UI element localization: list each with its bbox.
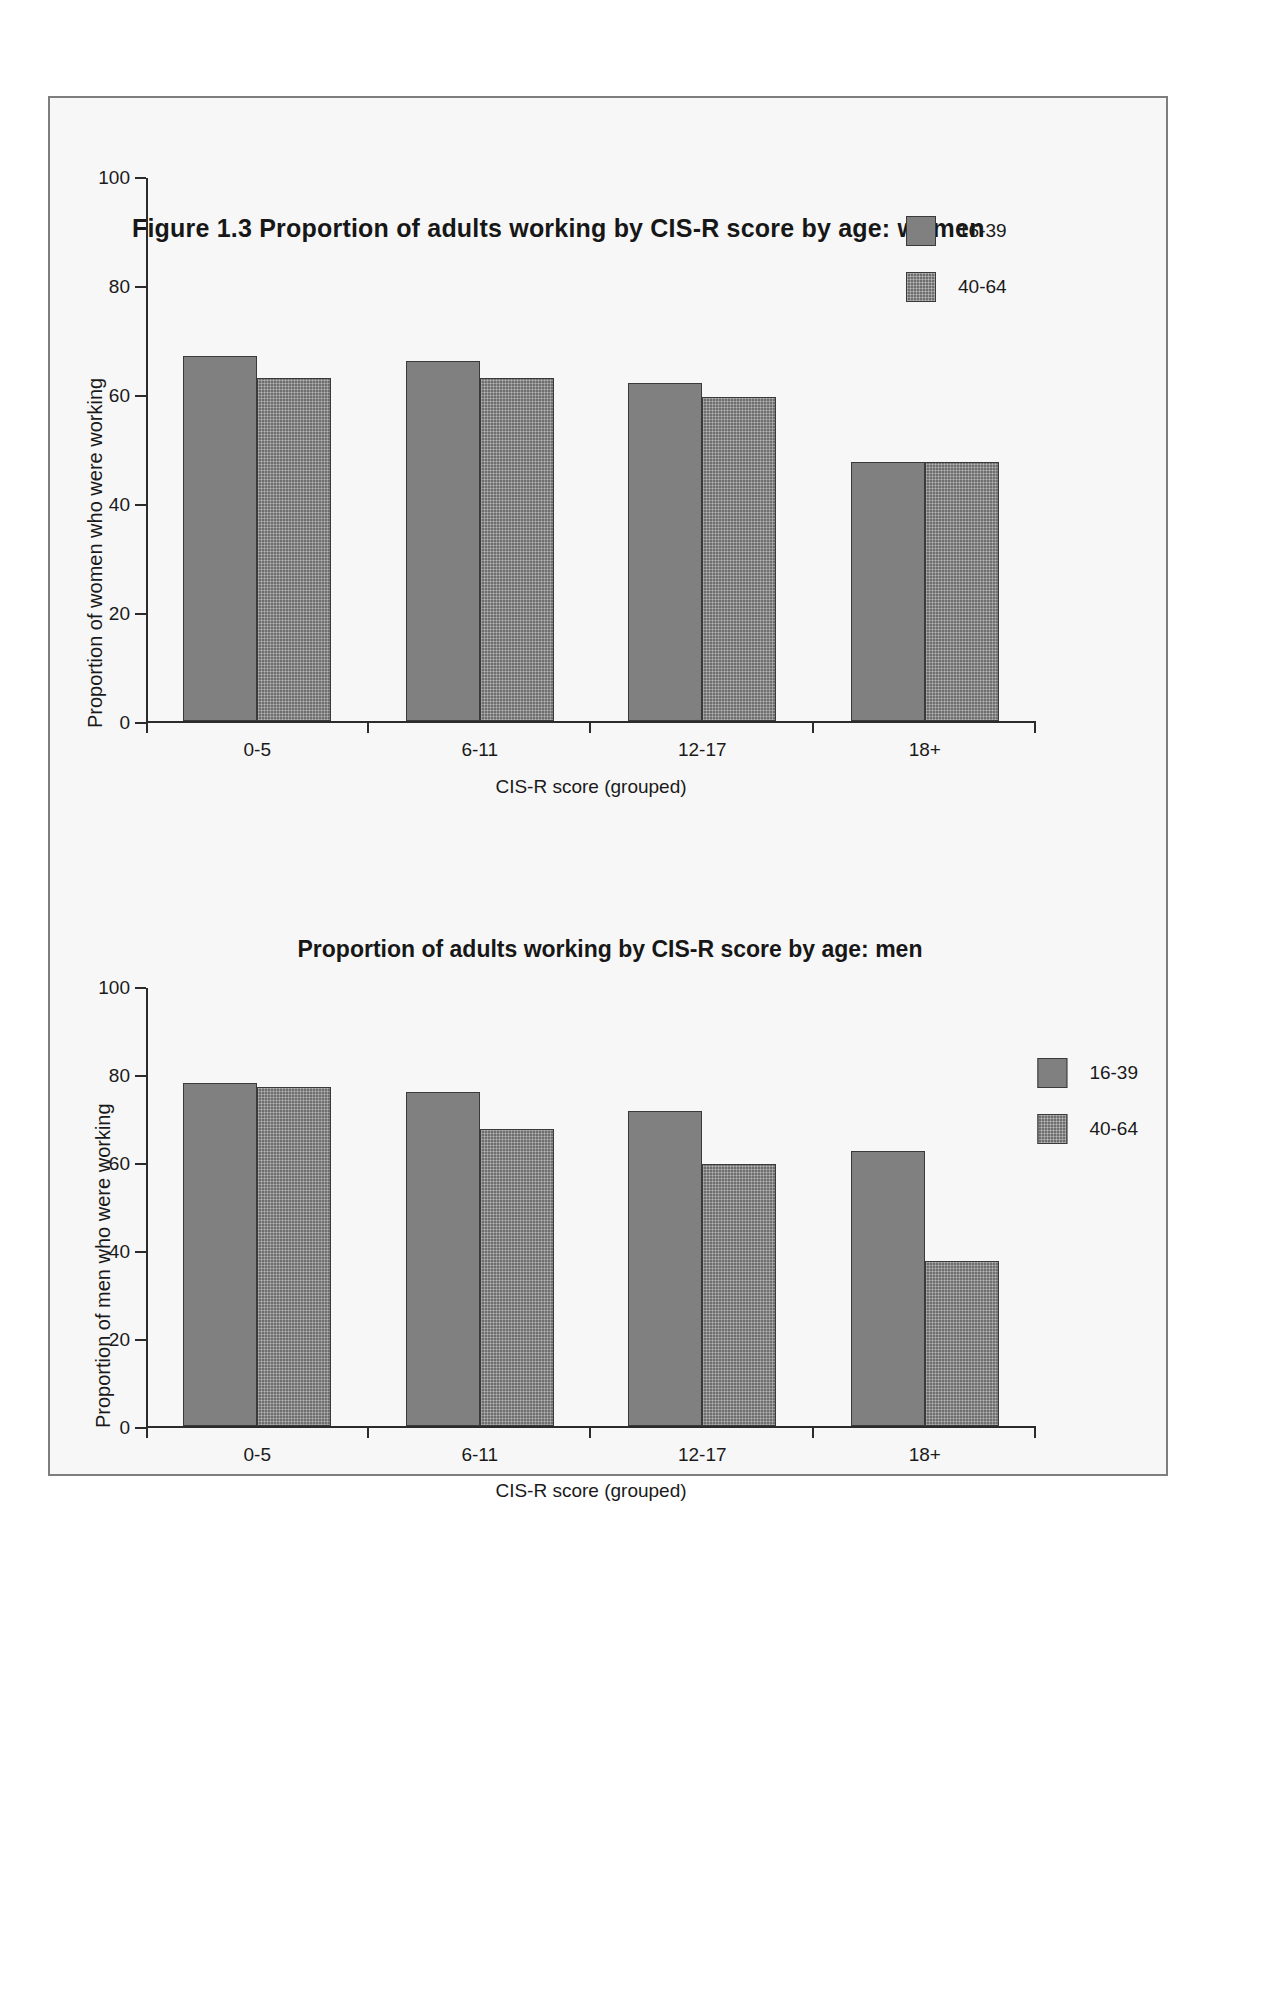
legend-item-16-39: 16-39 bbox=[1037, 1058, 1138, 1088]
x-axis-label-men: CIS-R score (grouped) bbox=[495, 1480, 686, 1502]
y-axis-tick-label: 20 bbox=[109, 603, 130, 625]
legend-label: 16-39 bbox=[1089, 1062, 1138, 1084]
y-axis-tick-label: 100 bbox=[98, 977, 130, 999]
legend-label: 40-64 bbox=[1089, 1118, 1138, 1140]
x-axis-line bbox=[146, 1426, 1036, 1428]
legend-swatch-16-39 bbox=[906, 216, 936, 246]
x-axis-tick bbox=[146, 723, 148, 733]
legend-item-16-39: 16-39 bbox=[906, 216, 1007, 246]
bar-40-64-18+ bbox=[925, 1261, 999, 1426]
y-axis-tick-label: 80 bbox=[109, 1065, 130, 1087]
legend-item-40-64: 40-64 bbox=[906, 272, 1007, 302]
chart-women: 0204060801000-56-1112-1718+ bbox=[146, 178, 1036, 723]
bar-40-64-6-11 bbox=[480, 1129, 554, 1426]
bar-40-64-12-17 bbox=[702, 397, 776, 721]
y-axis-tick bbox=[135, 722, 146, 724]
bar-16-39-6-11 bbox=[406, 361, 480, 721]
y-axis-tick bbox=[135, 1339, 146, 1341]
chart-men-title: Proportion of adults working by CIS-R sc… bbox=[50, 936, 1170, 963]
y-axis-tick bbox=[135, 286, 146, 288]
x-axis-category-label: 12-17 bbox=[678, 739, 727, 761]
y-axis-tick-label: 100 bbox=[98, 167, 130, 189]
x-axis-category-label: 0-5 bbox=[244, 1444, 271, 1466]
legend-swatch-40-64 bbox=[1037, 1114, 1067, 1144]
bar-16-39-12-17 bbox=[628, 383, 702, 721]
bar-16-39-18+ bbox=[851, 1151, 925, 1426]
y-axis-tick-label: 80 bbox=[109, 276, 130, 298]
legend-item-40-64: 40-64 bbox=[1037, 1114, 1138, 1144]
y-axis-line bbox=[146, 988, 148, 1428]
figure-page-frame: Figure 1.3 Proportion of adults working … bbox=[48, 96, 1168, 1476]
y-axis-tick bbox=[135, 987, 146, 989]
bar-40-64-18+ bbox=[925, 462, 999, 721]
x-axis-category-label: 6-11 bbox=[461, 739, 498, 761]
y-axis-tick bbox=[135, 177, 146, 179]
bar-16-39-6-11 bbox=[406, 1092, 480, 1426]
legend-swatch-16-39 bbox=[1037, 1058, 1067, 1088]
y-axis-label-women: Proportion of women who were working bbox=[84, 378, 107, 728]
y-axis-tick-label: 0 bbox=[119, 712, 130, 734]
x-axis-line bbox=[146, 721, 1036, 723]
y-axis-tick bbox=[135, 1163, 146, 1165]
y-axis-tick bbox=[135, 395, 146, 397]
bar-16-39-0-5 bbox=[183, 1083, 257, 1426]
chart-men: 0204060801000-56-1112-1718+ bbox=[146, 988, 1036, 1428]
y-axis-tick bbox=[135, 1075, 146, 1077]
legend-swatch-40-64 bbox=[906, 272, 936, 302]
y-axis-tick bbox=[135, 1251, 146, 1253]
y-axis-tick bbox=[135, 504, 146, 506]
x-axis-category-label: 18+ bbox=[909, 1444, 941, 1466]
x-axis-tick bbox=[146, 1428, 148, 1438]
x-axis-tick bbox=[812, 723, 814, 733]
bar-16-39-0-5 bbox=[183, 356, 257, 721]
y-axis-tick bbox=[135, 613, 146, 615]
x-axis-label-women: CIS-R score (grouped) bbox=[495, 776, 686, 798]
x-axis-tick bbox=[367, 723, 369, 733]
legend-label: 16-39 bbox=[958, 220, 1007, 242]
y-axis-tick-label: 0 bbox=[119, 1417, 130, 1439]
legend-women: 16-3940-64 bbox=[906, 216, 1007, 328]
bar-16-39-12-17 bbox=[628, 1111, 702, 1426]
x-axis-tick bbox=[812, 1428, 814, 1438]
x-axis-tick bbox=[589, 723, 591, 733]
bar-40-64-0-5 bbox=[257, 378, 331, 721]
x-axis-category-label: 18+ bbox=[909, 739, 941, 761]
x-axis-tick bbox=[589, 1428, 591, 1438]
x-axis-category-label: 6-11 bbox=[461, 1444, 498, 1466]
legend-men: 16-3940-64 bbox=[1037, 1058, 1138, 1170]
x-axis-tick bbox=[367, 1428, 369, 1438]
plot-area-women: 0204060801000-56-1112-1718+ bbox=[146, 178, 1036, 723]
bar-40-64-6-11 bbox=[480, 378, 554, 721]
y-axis-label-men: Proportion of men who were working bbox=[92, 1103, 115, 1428]
x-axis-category-label: 12-17 bbox=[678, 1444, 727, 1466]
y-axis-tick-label: 40 bbox=[109, 494, 130, 516]
bar-16-39-18+ bbox=[851, 462, 925, 721]
plot-area-men: 0204060801000-56-1112-1718+ bbox=[146, 988, 1036, 1428]
bar-40-64-0-5 bbox=[257, 1087, 331, 1426]
x-axis-tick bbox=[1034, 1428, 1036, 1438]
y-axis-tick bbox=[135, 1427, 146, 1429]
y-axis-line bbox=[146, 178, 148, 723]
bar-40-64-12-17 bbox=[702, 1164, 776, 1426]
y-axis-tick-label: 60 bbox=[109, 385, 130, 407]
x-axis-category-label: 0-5 bbox=[244, 739, 271, 761]
legend-label: 40-64 bbox=[958, 276, 1007, 298]
x-axis-tick bbox=[1034, 723, 1036, 733]
